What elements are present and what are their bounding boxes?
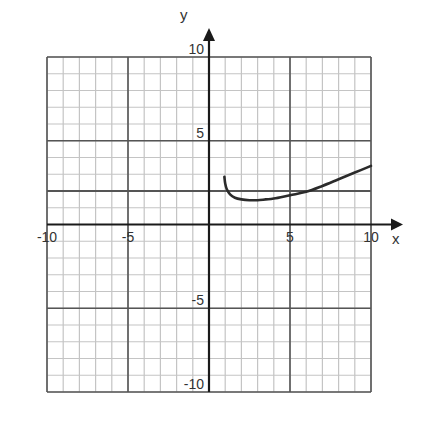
x-axis-arrow-icon bbox=[391, 219, 403, 231]
x-tick-label: -10 bbox=[37, 229, 57, 245]
y-tick-label: 5 bbox=[196, 125, 204, 141]
curve bbox=[224, 166, 371, 200]
x-tick-label: 5 bbox=[286, 229, 294, 245]
x-tick-label: -5 bbox=[122, 229, 135, 245]
x-axis-label: x bbox=[392, 230, 400, 247]
y-tick-label: -10 bbox=[184, 376, 204, 392]
y-axis-label: y bbox=[180, 6, 188, 23]
y-tick-label: 10 bbox=[188, 41, 204, 57]
coordinate-plane: -10-5510105-5-10 x y bbox=[0, 0, 422, 424]
y-axis-arrow-icon bbox=[203, 28, 215, 41]
x-tick-label: 10 bbox=[363, 229, 379, 245]
y-tick-label: -5 bbox=[192, 292, 205, 308]
curve-curve bbox=[224, 166, 371, 200]
